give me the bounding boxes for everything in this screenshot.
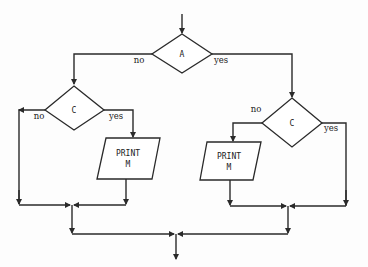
print-left-line1: PRINT	[116, 149, 140, 158]
a-yes-label: yes	[213, 55, 228, 65]
print-left-line2: M	[126, 160, 131, 169]
print-left: PRINT M	[97, 138, 160, 179]
c-right-yes-connector	[322, 123, 346, 206]
decision-a-label: A	[180, 50, 185, 59]
decision-a: A	[152, 34, 212, 73]
print-right-line2: M	[227, 163, 232, 172]
flowchart-canvas: A no yes C no yes PRINT M C no yes PRINT…	[0, 0, 368, 267]
print-right-line1: PRINT	[217, 152, 241, 161]
c-right-no-connector	[233, 123, 262, 141]
flowchart-svg: A no yes C no yes PRINT M C no yes PRINT…	[0, 0, 368, 267]
c-left-no-connector	[19, 110, 45, 204]
print-right: PRINT M	[200, 142, 261, 180]
c-right-yes-label: yes	[323, 123, 338, 133]
decision-c-right: C	[262, 98, 322, 147]
decision-c-left-label: C	[72, 106, 77, 115]
decision-c-left: C	[45, 86, 104, 130]
c-left-yes-label: yes	[108, 111, 123, 121]
a-no-label: no	[134, 55, 145, 65]
c-left-no-label: no	[34, 111, 45, 121]
c-right-no-label: no	[251, 104, 262, 114]
decision-c-right-label: C	[290, 119, 295, 128]
